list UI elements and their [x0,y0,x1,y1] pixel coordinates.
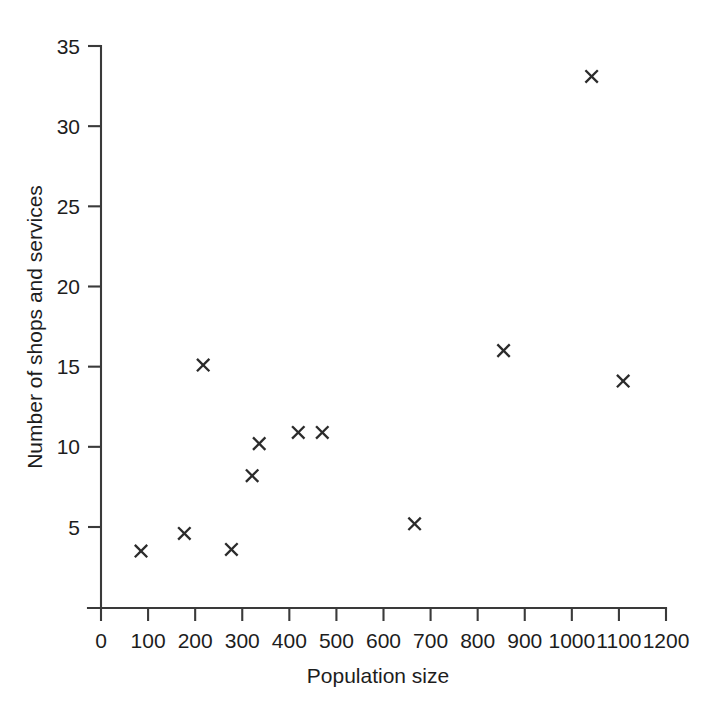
data-point [617,375,629,387]
y-axis-title: Number of shops and services [23,185,46,469]
data-point [135,545,147,557]
y-tick-label: 20 [57,275,80,298]
y-tick-label: 30 [57,115,80,138]
x-axis-tick-labels: 0100200300400500600700800900100011001200 [95,629,689,652]
y-axis-tick-labels: 5101520253035 [57,35,80,539]
x-tick-label: 100 [131,629,166,652]
data-point [497,344,509,356]
y-tick-label: 25 [57,195,80,218]
data-point [178,527,190,539]
x-tick-label: 700 [413,629,448,652]
data-point-markers [135,70,630,557]
x-axis-title: Population size [307,664,449,687]
y-axis-ticks [88,46,101,527]
x-axis-ticks [101,608,666,621]
x-tick-label: 900 [507,629,542,652]
x-tick-label: 1000 [548,629,595,652]
plot-canvas: 5101520253035 01002003004005006007008009… [0,0,716,715]
x-tick-label: 400 [272,629,307,652]
data-point [408,518,420,530]
x-tick-label: 1200 [643,629,690,652]
x-tick-label: 800 [460,629,495,652]
y-tick-label: 5 [68,516,80,539]
x-tick-label: 600 [366,629,401,652]
y-tick-label: 15 [57,355,80,378]
x-tick-label: 300 [225,629,260,652]
y-tick-label: 35 [57,35,80,58]
data-point [225,543,237,555]
data-point [197,359,209,371]
data-point [292,426,304,438]
y-tick-label: 10 [57,435,80,458]
data-point [253,437,265,449]
data-point [316,426,328,438]
data-point [585,70,597,82]
x-tick-label: 1100 [596,629,641,652]
data-point [246,469,258,481]
x-tick-label: 0 [95,629,107,652]
x-tick-label: 200 [178,629,213,652]
x-tick-label: 500 [319,629,354,652]
scatter-plot-figure: 5101520253035 01002003004005006007008009… [0,0,716,715]
